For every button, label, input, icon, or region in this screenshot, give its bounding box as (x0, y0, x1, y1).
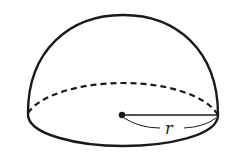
base-back-dashed (28, 83, 218, 115)
radius-brace-left (124, 118, 160, 128)
hemisphere-diagram: r (0, 0, 234, 155)
center-point (119, 112, 125, 118)
dome-outline (28, 15, 218, 115)
radius-label: r (165, 119, 174, 138)
